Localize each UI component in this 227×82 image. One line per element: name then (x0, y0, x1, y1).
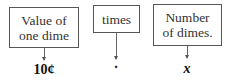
multiplication-dot: · (106, 60, 126, 76)
down-arrow-icon (116, 33, 117, 59)
box-label-line2: of dimes. (162, 25, 212, 40)
dimes-variable: x (177, 61, 197, 77)
value-of-one-dime-box: Value of one dime (9, 7, 79, 48)
box-label-line1: times (102, 12, 131, 27)
box-label-line1: Value of (19, 13, 69, 28)
dime-value: 10¢ (29, 62, 59, 78)
times-box: times (93, 5, 140, 33)
box-label-line2: one dime (19, 28, 69, 43)
box-label-line1: Number (162, 10, 212, 25)
down-arrow-icon (44, 48, 45, 60)
number-of-dimes-box: Number of dimes. (153, 4, 222, 46)
down-arrow-icon (187, 46, 188, 58)
